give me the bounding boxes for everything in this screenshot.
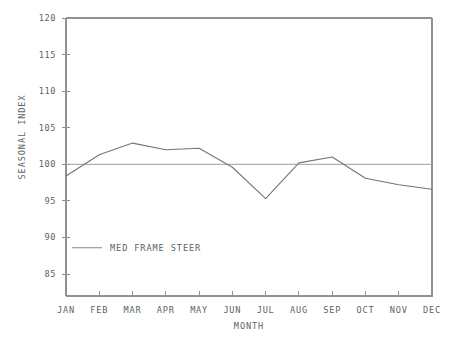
x-tick-label-jul: JUL [257, 305, 275, 315]
y-tick-label-90: 90 [44, 232, 56, 242]
y-tick-label-100: 100 [39, 159, 56, 169]
x-tick-label-jan: JAN [57, 305, 75, 315]
data-series-med-frame-steer [66, 143, 432, 199]
chart-canvas: 120115110105100959085JANFEBMARAPRMAYJUNJ… [0, 0, 449, 358]
y-tick-label-85: 85 [44, 269, 56, 279]
legend-label-med-frame-steer: MED FRAME STEER [110, 243, 201, 253]
y-axis-title: SEASONAL INDEX [17, 94, 27, 179]
x-tick-label-sep: SEP [323, 305, 341, 315]
y-tick-label-120: 120 [39, 13, 56, 23]
y-tick-label-110: 110 [39, 86, 56, 96]
x-tick-label-apr: APR [157, 305, 175, 315]
x-axis-title: MONTH [234, 321, 264, 331]
seasonal-index-chart: 120115110105100959085JANFEBMARAPRMAYJUNJ… [0, 0, 449, 358]
x-tick-label-feb: FEB [90, 305, 108, 315]
x-tick-label-jun: JUN [223, 305, 241, 315]
x-tick-label-aug: AUG [290, 305, 308, 315]
x-tick-label-mar: MAR [124, 305, 142, 315]
x-tick-label-oct: OCT [356, 305, 374, 315]
y-tick-label-95: 95 [44, 196, 56, 206]
x-tick-label-nov: NOV [390, 305, 408, 315]
y-tick-label-105: 105 [39, 123, 56, 133]
x-tick-label-may: MAY [190, 305, 208, 315]
y-tick-label-115: 115 [39, 50, 56, 60]
x-tick-label-dec: DEC [423, 305, 441, 315]
